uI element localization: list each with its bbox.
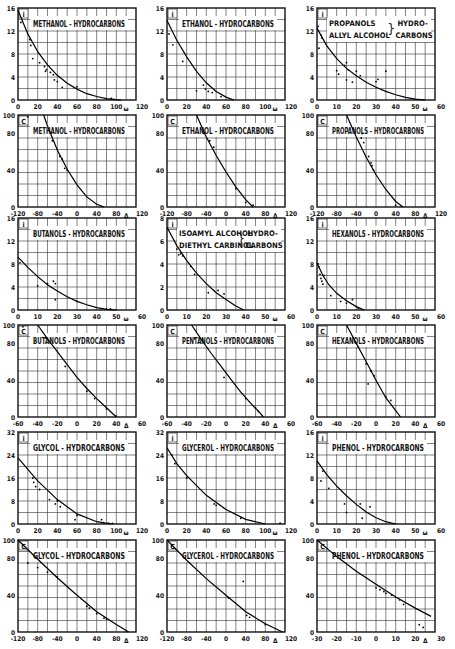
data-point: [369, 506, 371, 508]
y-axis-symbol: C: [320, 328, 325, 336]
y-tick-label: 0: [11, 97, 15, 105]
x-tick-label: 0: [16, 103, 20, 111]
chart-panel-8: ISOAMYL ALCOHOLDIETHYL CARBINOLHYDRO-CAR…: [160, 215, 295, 324]
x-tick-label: 80: [93, 527, 101, 535]
data-point: [223, 293, 225, 295]
y-tick-label: 4: [11, 284, 15, 292]
data-point: [371, 165, 373, 167]
data-point: [418, 624, 420, 626]
chart-panel-10: BUTANOLS - HYDROCARBONSC04080100-60-40-2…: [3, 322, 146, 431]
data-point: [115, 415, 117, 417]
brace-icon: }: [237, 231, 244, 246]
x-tick-label: 0: [374, 420, 378, 428]
y-tick-label: 100: [3, 537, 15, 545]
x-tick-label: 40: [392, 527, 400, 535]
y-axis-symbol: C: [170, 118, 175, 126]
x-tick-label: 40: [392, 313, 400, 321]
data-point: [323, 275, 325, 277]
x-tick-label: 20: [53, 313, 61, 321]
x-tick-label: 40: [411, 420, 419, 428]
x-tick-label: 80: [261, 635, 269, 643]
x-tick-label: 30: [372, 103, 380, 111]
y-tick-label: 40: [306, 167, 314, 175]
y-tick-label: 80: [7, 340, 15, 348]
data-point: [53, 280, 55, 282]
x-tick-label: 50: [411, 527, 419, 535]
data-point: [318, 266, 320, 268]
x-tick-label: 80: [93, 103, 101, 111]
y-tick-label: 0: [160, 307, 164, 315]
data-point: [182, 61, 184, 63]
x-tick-label: 40: [261, 420, 269, 428]
data-point: [59, 506, 61, 508]
x-tick-label: 60: [138, 313, 146, 321]
data-point: [279, 522, 281, 524]
x-axis-symbol: ω: [423, 529, 428, 537]
chart-title: BUTANOLS - HYDROCARBONS: [33, 229, 125, 239]
data-point: [47, 283, 49, 285]
x-tick-label: -80: [181, 635, 192, 643]
data-point: [178, 254, 180, 256]
data-point: [54, 283, 56, 285]
data-point: [32, 58, 34, 60]
data-point: [86, 605, 88, 607]
data-point: [106, 308, 108, 310]
x-tick-label: 20: [411, 635, 419, 643]
chart-panel-11: PENTANOLS - HYDROCARBONSC04080100-60-40-…: [152, 322, 295, 431]
data-point: [336, 70, 338, 72]
x-tick-label: -40: [52, 635, 63, 643]
data-point: [264, 624, 266, 626]
data-point: [32, 477, 34, 479]
x-tick-label: -20: [52, 420, 63, 428]
data-point: [56, 500, 58, 502]
chart-title-line4: CARBONS: [245, 241, 282, 250]
x-tick-label: 20: [34, 103, 42, 111]
brace-icon: }: [387, 21, 394, 36]
chart-panel-15: PHENOL - HYDROCARBONSi048121601020304050…: [306, 429, 445, 538]
data-point: [39, 62, 41, 64]
data-point: [255, 407, 257, 409]
data-point: [66, 169, 68, 171]
chart-title: GLYCOL - HYDROCARBONS: [33, 443, 125, 453]
data-point: [377, 78, 379, 80]
x-tick-label: 10: [333, 103, 341, 111]
data-point: [352, 299, 354, 301]
y-tick-label: 80: [7, 130, 15, 138]
data-point: [373, 169, 375, 171]
y-tick-label: 0: [310, 97, 314, 105]
fit-curve: [317, 263, 364, 310]
y-tick-label: 8: [310, 475, 314, 483]
chart-title: METHANOL - HYDROCARBONS: [33, 19, 125, 29]
data-point: [223, 377, 225, 379]
data-point: [395, 204, 397, 206]
data-point: [340, 300, 342, 302]
data-point: [106, 408, 108, 410]
data-point: [86, 390, 88, 392]
data-point: [359, 503, 361, 505]
data-point: [322, 470, 324, 472]
y-tick-label: 16: [306, 429, 314, 437]
y-tick-label: 24: [156, 452, 164, 460]
data-point: [50, 72, 52, 74]
x-tick-label: 40: [242, 313, 250, 321]
data-point: [220, 96, 222, 98]
y-tick-label: 80: [156, 340, 164, 348]
x-tick-label: 60: [138, 420, 146, 428]
x-tick-label: 50: [261, 313, 269, 321]
data-point: [76, 300, 78, 302]
data-point: [344, 503, 346, 505]
x-tick-label: 0: [75, 420, 79, 428]
data-point: [228, 597, 230, 599]
data-point: [209, 140, 211, 142]
x-axis-symbol: Δ: [423, 637, 428, 645]
data-point: [249, 616, 251, 618]
x-tick-label: 50: [411, 313, 419, 321]
y-tick-label: 16: [156, 475, 164, 483]
x-tick-label: 60: [437, 313, 445, 321]
data-point: [61, 158, 63, 160]
chart-panel-5: ETHANOL - HYDROCARBONSC04080100-120-80-4…: [152, 112, 297, 221]
y-tick-label: 100: [302, 112, 314, 120]
x-tick-label: 100: [259, 103, 271, 111]
data-point: [357, 307, 359, 309]
y-tick-label: 100: [3, 112, 15, 120]
